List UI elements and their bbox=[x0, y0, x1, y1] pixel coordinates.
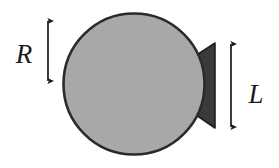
diagram-canvas: R L bbox=[0, 0, 279, 168]
length-label: L bbox=[247, 79, 263, 109]
sphere-body bbox=[64, 14, 205, 155]
radius-label: R bbox=[15, 39, 33, 69]
figure-container: R L bbox=[0, 0, 279, 168]
radius-dimension: R bbox=[15, 21, 48, 81]
length-dimension: L bbox=[231, 44, 264, 127]
